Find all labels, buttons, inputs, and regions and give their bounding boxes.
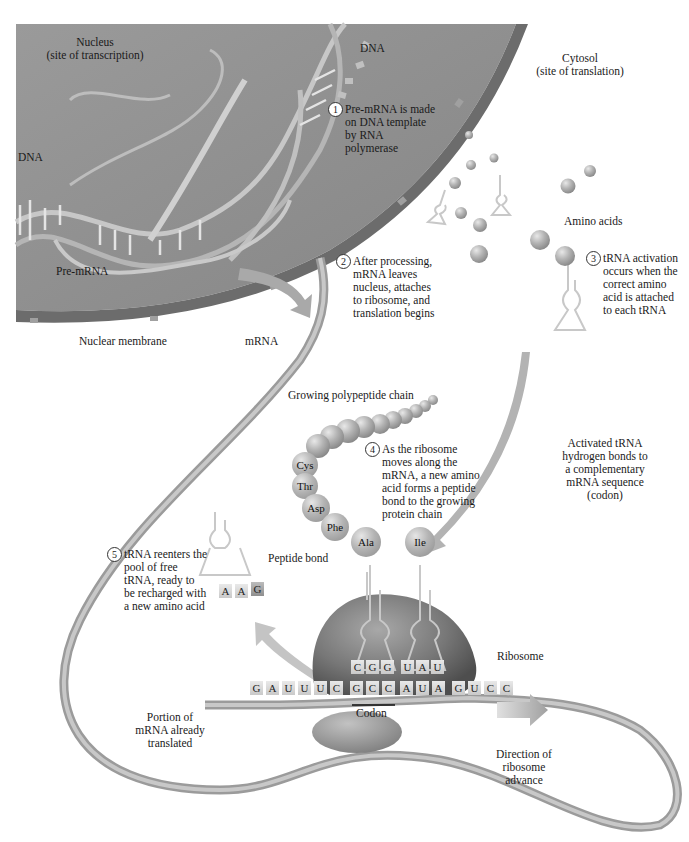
step-3-line: correct amino	[603, 278, 678, 291]
step-5-line: pool of free	[124, 561, 207, 574]
transcription-translation-diagram: Cys Thr Asp Phe Ala Ile A A G C G G U A …	[0, 0, 689, 842]
step-2: 2 After processing, mRNA leaves nucleus,…	[336, 255, 434, 320]
already-translated-line: Portion of	[120, 711, 220, 724]
pre-mrna-label: Pre-mRNA	[56, 265, 108, 278]
nuclear-membrane-label: Nuclear membrane	[79, 335, 167, 348]
step-number-badge: 1	[328, 102, 343, 117]
cytosol-subtitle: (site of translation)	[515, 65, 645, 78]
amino-acids-label: Amino acids	[564, 215, 622, 228]
mrna-base: U	[416, 681, 429, 695]
direction-line: Direction of	[479, 748, 569, 761]
ribosome-anticodon-base: C	[351, 660, 364, 674]
nucleus-title: Nucleus	[35, 36, 155, 49]
step-1-line: by RNA	[345, 129, 435, 142]
mrna-base: C	[330, 681, 343, 695]
step-number-badge: 4	[365, 442, 380, 457]
cytosol-label: Cytosol (site of translation)	[515, 52, 645, 78]
ribosome-anticodon-base: U	[431, 660, 444, 674]
ribosome-anticodon-base: A	[416, 660, 429, 674]
codon-label: Codon	[356, 707, 387, 720]
step-4: 4 As the ribosome moves along the mRNA, …	[365, 443, 480, 521]
released-anticodon-base: A	[235, 584, 248, 598]
direction-line: advance	[479, 774, 569, 787]
released-anticodon-base: G	[251, 582, 264, 596]
mrna-base: A	[432, 681, 445, 695]
mrna-label: mRNA	[245, 335, 278, 348]
mrna-base: C	[382, 681, 395, 695]
peptide-bond-label: Peptide bond	[268, 552, 328, 565]
nucleus-subtitle: (site of transcription)	[35, 49, 155, 62]
direction-label: Direction of ribosome advance	[479, 748, 569, 787]
step-2-line: After processing,	[353, 255, 434, 268]
step-5-line: tRNA reenters the	[124, 548, 207, 561]
mrna-base: U	[298, 681, 311, 695]
mrna-base: U	[282, 681, 295, 695]
step-2-line: translation begins	[353, 307, 434, 320]
step-2-line: nucleus, attaches	[353, 281, 434, 294]
step-4-line: bond to the growing	[382, 495, 480, 508]
step-number-badge: 2	[336, 254, 351, 269]
step-2-line: mRNA leaves	[353, 268, 434, 281]
already-translated-line: mRNA already	[120, 724, 220, 737]
ribosome-label: Ribosome	[497, 650, 544, 663]
step-5: 5 tRNA reenters the pool of free tRNA, r…	[107, 548, 207, 613]
step-5-line: tRNA, ready to	[124, 574, 207, 587]
step-3: 3 tRNA activation occurs when the correc…	[586, 252, 678, 317]
step-3-line: to each tRNA	[603, 304, 678, 317]
step-number-badge: 5	[107, 547, 122, 562]
mrna-base: A	[400, 681, 413, 695]
activated-trna-label: Activated tRNA hydrogen bonds to a compl…	[540, 437, 670, 502]
step-5-line: a new amino acid	[124, 600, 207, 613]
step-4-line: mRNA, a new amino	[382, 469, 480, 482]
mrna-base: C	[366, 681, 379, 695]
residue-phe: Phe	[321, 513, 349, 541]
step-1-line: Pre-mRNA is made	[345, 103, 435, 116]
already-translated-line: translated	[120, 737, 220, 750]
growing-chain-label: Growing polypeptide chain	[288, 389, 414, 402]
free-amino-acids	[449, 131, 596, 266]
step-2-line: to ribosome, and	[353, 294, 434, 307]
cytosol-title: Cytosol	[515, 52, 645, 65]
ribosome-anticodon-base: G	[366, 660, 379, 674]
step-4-line: acid forms a peptide	[382, 482, 480, 495]
activated-trna-line: (codon)	[540, 489, 670, 502]
step-3-line: occurs when the	[603, 265, 678, 278]
mrna-base: U	[314, 681, 327, 695]
residue-ala: Ala	[351, 527, 381, 557]
step-4-line: As the ribosome	[382, 443, 480, 456]
mrna-base: A	[266, 681, 279, 695]
step-1-line: on DNA template	[345, 116, 435, 129]
ribosome	[312, 594, 476, 753]
step-1-line: polymerase	[345, 142, 435, 155]
activated-trna-line: Activated tRNA	[540, 437, 670, 450]
already-translated-label: Portion of mRNA already translated	[120, 711, 220, 750]
mrna-base: C	[484, 681, 497, 695]
step-1: 1 Pre-mRNA is made on DNA template by RN…	[328, 103, 435, 155]
step-4-line: moves along the	[382, 456, 480, 469]
activated-trna-line: a complementary	[540, 463, 670, 476]
mrna-base: G	[452, 681, 465, 695]
direction-line: ribosome	[479, 761, 569, 774]
step-4-line: protein chain	[382, 508, 480, 521]
mrna-base: U	[468, 681, 481, 695]
residue-ile-incoming: Ile	[405, 527, 435, 557]
released-anticodon-base: A	[219, 584, 232, 598]
mrna-sequence: G A U U U C G C C A U A G U C C	[250, 681, 610, 695]
mrna-base: C	[500, 681, 513, 695]
ribosome-anticodon-base: G	[381, 660, 394, 674]
dna-top-label: DNA	[360, 42, 385, 55]
step-3-line: tRNA activation	[603, 252, 678, 265]
dna-left-label: DNA	[18, 151, 43, 164]
step-5-line: be recharged with	[124, 587, 207, 600]
activated-trna-line: hydrogen bonds to	[540, 450, 670, 463]
mrna-base: G	[250, 681, 263, 695]
activated-trna-line: mRNA sequence	[540, 476, 670, 489]
step-3-line: acid is attached	[603, 291, 678, 304]
step-number-badge: 3	[586, 251, 601, 266]
nucleus-label: Nucleus (site of transcription)	[35, 36, 155, 62]
mrna-base: G	[350, 681, 363, 695]
ribosome-anticodon-base: U	[401, 660, 414, 674]
